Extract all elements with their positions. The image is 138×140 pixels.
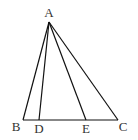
segment-ab	[23, 22, 49, 120]
segment-ae	[49, 22, 86, 120]
triangle-diagram: A B D E C	[0, 0, 138, 140]
segment-ad	[39, 22, 49, 120]
label-e: E	[82, 121, 90, 136]
label-d: D	[34, 121, 43, 136]
label-b: B	[12, 119, 21, 134]
label-a: A	[44, 5, 54, 20]
segment-ac	[49, 22, 118, 120]
label-c: C	[119, 119, 128, 134]
